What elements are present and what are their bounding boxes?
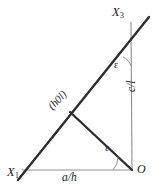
- axis-label-x3: X3: [112, 6, 124, 19]
- angle-arc-bottom: [113, 157, 118, 170]
- normal-segment-line: [70, 112, 132, 170]
- intercept-label-a-over-h: a/h: [62, 172, 77, 184]
- intercept-label-c-over-l: c/l: [126, 81, 138, 93]
- axis-label-x1: X1: [7, 166, 19, 179]
- axis-label-x1-text: X: [7, 165, 15, 179]
- axis-label-x1-subscript: 1: [15, 171, 19, 180]
- plane-trace-line: [18, 17, 149, 180]
- diagram-canvas: [0, 0, 157, 189]
- angle-arc-top: [123, 57, 131, 66]
- x3-axis-line: [131, 22, 132, 170]
- angle-label-epsilon-top: ε: [114, 61, 118, 71]
- axis-label-x3-text: X: [112, 5, 120, 19]
- angle-label-epsilon-bottom: ε: [105, 144, 109, 154]
- axis-label-x3-subscript: 3: [120, 11, 124, 20]
- crystal-plane-diagram: X3 X1 O a/h c/l (h0l) ε ε: [0, 0, 157, 189]
- origin-label: O: [137, 163, 146, 175]
